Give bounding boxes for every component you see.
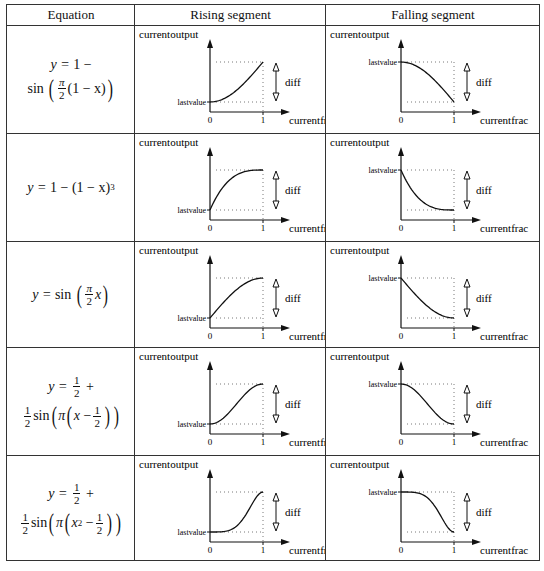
eq-text: x: [95, 288, 101, 302]
arrowhead-icon: [398, 147, 404, 156]
lastvalue-label: lastvalue: [178, 206, 207, 215]
eq-fraction: 12: [93, 404, 101, 429]
diff-label: diff: [285, 184, 301, 196]
y-axis-label: currentoutput: [330, 244, 389, 256]
eq-paren: (: [51, 403, 56, 429]
falling-graph-3: currentoutput01currentfraclastvaluediff: [326, 242, 539, 348]
arrowhead-icon: [398, 39, 404, 48]
eq-sin: sin: [28, 82, 44, 96]
x-axis-label: currentfrac: [480, 222, 528, 234]
eq-paren: (: [49, 76, 54, 102]
rising-graph-2: currentoutput01currentfraclastvaluediff: [135, 134, 325, 240]
tick-0: 0: [399, 437, 404, 447]
eq-fraction: 12: [73, 481, 81, 506]
tick-1: 1: [261, 437, 266, 447]
lastvalue-label: lastvalue: [369, 58, 398, 67]
tick-0: 0: [399, 331, 404, 341]
diff-arrow-down-icon: [273, 523, 279, 531]
tick-1: 1: [452, 437, 457, 447]
diff-arrow-down-icon: [273, 309, 279, 317]
y-axis-label: currentoutput: [330, 28, 389, 40]
rising-graph-3: currentoutput01currentfraclastvaluediff: [135, 242, 325, 348]
tick-1: 1: [261, 545, 266, 555]
diff-label: diff: [285, 398, 301, 410]
y-axis-label: currentoutput: [330, 136, 389, 148]
easing-curve: [210, 278, 263, 318]
eq-fraction: 12: [96, 511, 104, 536]
easing-curve: [210, 170, 263, 210]
easing-curve: [210, 62, 263, 102]
eq-paren: ): [113, 403, 118, 429]
eq-text: 1 −: [73, 58, 91, 72]
tick-0: 0: [208, 545, 213, 555]
easing-table: Equation Rising segment Falling segment …: [6, 4, 540, 561]
tick-1: 1: [452, 115, 457, 125]
diff-arrow-down-icon: [464, 93, 470, 101]
tick-1: 1: [261, 223, 266, 233]
y-axis-label: currentoutput: [139, 350, 198, 362]
falling-graph-5: currentoutput01currentfraclastvaluediff: [326, 456, 539, 562]
eq-exponent: 3: [110, 183, 115, 192]
diff-label: diff: [476, 292, 492, 304]
eq-paren: (: [65, 510, 70, 536]
eq-paren: ): [116, 510, 121, 536]
easing-curve: [210, 384, 263, 424]
diff-arrow-down-icon: [464, 309, 470, 317]
arrowhead-icon: [398, 255, 404, 264]
diff-label: diff: [285, 506, 301, 518]
eq-paren: ): [107, 510, 112, 536]
diff-label: diff: [476, 506, 492, 518]
falling-graph-4: currentoutput01currentfraclastvaluediff: [326, 348, 539, 454]
y-axis-label: currentoutput: [139, 244, 198, 256]
x-axis-label: currentfrac: [289, 330, 325, 342]
tick-1: 1: [261, 331, 266, 341]
eq-paren: (: [67, 403, 72, 429]
lastvalue-label: lastvalue: [178, 420, 207, 429]
tick-0: 0: [208, 115, 213, 125]
arrowhead-icon: [207, 255, 213, 264]
rising-graph-1: currentoutput01currentfraclastvaluediff: [135, 26, 325, 132]
equation-cell-5: y = 12 + 12 sin ( π ( x2 − 12 )): [7, 456, 135, 561]
diff-arrow-up-icon: [273, 279, 279, 287]
diff-arrow-up-icon: [464, 63, 470, 71]
arrowhead-icon: [207, 147, 213, 156]
eq-text: π: [58, 409, 65, 423]
x-axis-label: currentfrac: [480, 544, 528, 556]
eq-text: y =: [48, 487, 67, 501]
diff-arrow-down-icon: [464, 201, 470, 209]
arrowhead-icon: [398, 469, 404, 478]
eq-fraction: 12: [73, 374, 81, 399]
eq-paren: ): [105, 403, 110, 429]
lastvalue-label: lastvalue: [178, 528, 207, 537]
diff-label: diff: [476, 398, 492, 410]
eq-text: +: [86, 380, 94, 394]
eq-text: π: [56, 516, 63, 530]
equation-cell-2: y = 1 − (1 − x)3: [7, 134, 135, 241]
diff-arrow-down-icon: [273, 201, 279, 209]
lastvalue-label: lastvalue: [369, 274, 398, 283]
diff-label: diff: [476, 184, 492, 196]
eq-text: (1 − x): [68, 82, 106, 96]
eq-text: (1 − x): [72, 181, 110, 195]
y-axis-label: currentoutput: [139, 458, 198, 470]
tick-1: 1: [452, 331, 457, 341]
x-axis-label: currentfrac: [480, 330, 528, 342]
eq-sin: sin: [33, 409, 49, 423]
lastvalue-label: lastvalue: [369, 166, 398, 175]
tick-0: 0: [399, 545, 404, 555]
diff-arrow-up-icon: [273, 493, 279, 501]
header-equation: Equation: [7, 5, 135, 25]
x-axis-label: currentfrac: [480, 436, 528, 448]
equation-cell-1: y = 1 − sin ( π2 (1 − x) ): [7, 26, 135, 133]
x-axis-label: currentfrac: [289, 436, 325, 448]
tick-1: 1: [261, 115, 266, 125]
diff-arrow-up-icon: [464, 171, 470, 179]
eq-paren: ): [108, 76, 113, 102]
diff-arrow-up-icon: [273, 385, 279, 393]
eq-text: y =: [32, 288, 51, 302]
eq-text: −: [86, 516, 94, 530]
diff-arrow-up-icon: [464, 493, 470, 501]
lastvalue-label: lastvalue: [178, 314, 207, 323]
eq-text: x: [74, 409, 80, 423]
arrowhead-icon: [398, 361, 404, 370]
